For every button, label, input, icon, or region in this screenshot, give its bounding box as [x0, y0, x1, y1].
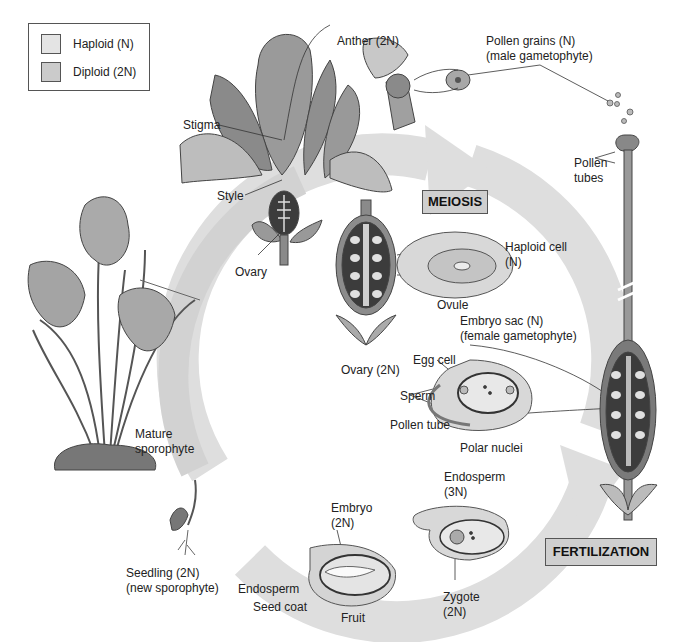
label-pollen-grains: Pollen grains (N): [486, 34, 575, 49]
legend-item-haploid: Haploid (N): [41, 34, 134, 54]
label-polar-nuclei: Polar nuclei: [460, 441, 523, 456]
diploid-swatch: [41, 62, 61, 82]
zygote-ovule: [413, 506, 509, 560]
angiosperm-life-cycle-diagram: Haploid (N) Diploid (2N) MEIOSIS FERTILI…: [0, 0, 689, 642]
label-ovary: Ovary: [235, 265, 267, 280]
label-haploid-cell: Haploid cell: [505, 240, 567, 255]
legend-label-diploid: Diploid (2N): [73, 65, 136, 79]
label-ovary-2n: Ovary (2N): [341, 363, 400, 378]
legend-item-diploid: Diploid (2N): [41, 62, 136, 82]
label-female-gametophyte: (female gametophyte): [460, 329, 577, 344]
label-mature-sporophyte-2: sporophyte: [135, 442, 194, 457]
label-pollen-tube: Pollen tube: [390, 418, 450, 433]
fruit-seed: [309, 544, 396, 605]
legend-label-haploid: Haploid (N): [73, 37, 134, 51]
label-anther: Anther (2N): [337, 34, 399, 49]
label-ovule: Ovule: [437, 298, 468, 313]
pollen-grains: [607, 93, 633, 124]
label-male-gametophyte: (male gametophyte): [486, 49, 593, 64]
label-sperm: Sperm: [400, 389, 435, 404]
ovary-cross-section: [336, 200, 396, 345]
haploid-swatch: [41, 34, 61, 54]
label-fruit: Fruit: [341, 611, 365, 626]
label-embryo-2n: (2N): [331, 516, 354, 531]
ovule: [397, 232, 513, 298]
label-egg-cell: Egg cell: [413, 353, 456, 368]
label-seed-coat: Seed coat: [253, 600, 307, 615]
label-endosperm-3n: Endosperm: [444, 470, 505, 485]
label-stigma: Stigma: [183, 118, 220, 133]
seedling: [170, 480, 196, 555]
meiosis-stage-label: MEIOSIS: [422, 190, 488, 214]
label-endosperm-3n-ploidy: (3N): [444, 485, 467, 500]
label-style: Style: [217, 189, 244, 204]
legend: Haploid (N) Diploid (2N): [28, 23, 150, 91]
label-zygote-2n: (2N): [443, 605, 466, 620]
label-pollen-tubes: Pollen: [574, 156, 607, 171]
label-haploid-cell-n: (N): [505, 255, 522, 270]
anther: [363, 38, 415, 130]
label-new-sporophyte: (new sporophyte): [126, 581, 219, 596]
fertilization-stage-label: FERTILIZATION: [545, 538, 657, 566]
label-endosperm: Endosperm: [238, 582, 299, 597]
label-pollen-tubes-2: tubes: [574, 171, 603, 186]
label-embryo-sac: Embryo sac (N): [460, 314, 543, 329]
label-zygote: Zygote: [443, 590, 480, 605]
label-seedling: Seedling (2N): [126, 566, 199, 581]
label-mature-sporophyte: Mature: [135, 427, 172, 442]
label-embryo: Embryo: [331, 501, 372, 516]
